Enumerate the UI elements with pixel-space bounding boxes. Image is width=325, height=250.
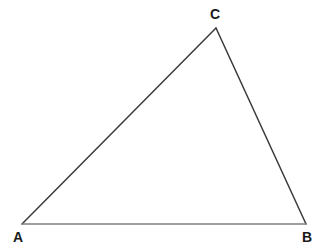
vertex-label-c: C — [210, 7, 220, 21]
vertex-label-b: B — [302, 230, 312, 244]
vertex-label-a: A — [13, 230, 23, 244]
triangle-canvas — [0, 0, 325, 250]
figure-background — [0, 0, 325, 250]
triangle-figure: A B C — [0, 0, 325, 250]
